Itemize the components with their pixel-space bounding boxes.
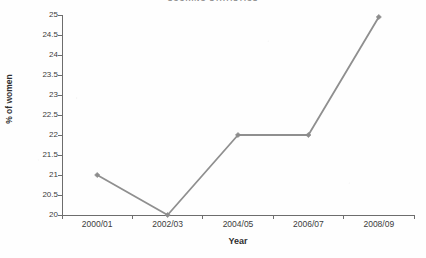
x-axis-tick-marks — [62, 215, 414, 219]
data-point-markers — [95, 14, 382, 217]
line-chart: SCORING STATISTICS % of women Year 2524.… — [0, 0, 426, 258]
plot-area — [0, 0, 426, 258]
data-series-line — [97, 17, 379, 215]
y-axis-tick-marks — [58, 15, 62, 215]
